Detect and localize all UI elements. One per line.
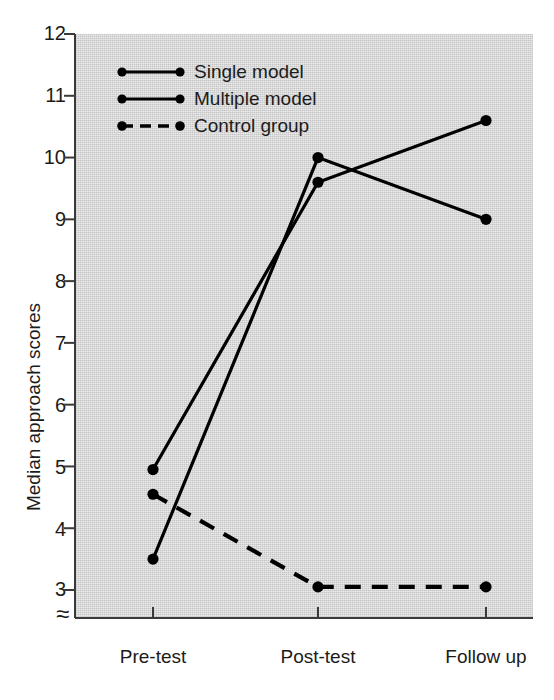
series-line-control-group [153, 494, 486, 587]
data-point-control-group [312, 581, 323, 592]
data-point-control-group [147, 489, 158, 500]
chart-canvas [0, 0, 554, 700]
data-point-single-model [312, 152, 323, 163]
data-point-control-group [480, 581, 491, 592]
data-point-multiple-model [147, 464, 158, 475]
axes [64, 34, 533, 618]
data-series-group [147, 115, 491, 593]
data-point-multiple-model [480, 115, 491, 126]
line-chart: 12 11 10 9 8 7 6 5 4 3 Median approach s… [0, 0, 554, 700]
series-line-multiple-model [153, 120, 486, 469]
data-point-single-model [147, 554, 158, 565]
data-point-multiple-model [312, 177, 323, 188]
data-point-single-model [480, 214, 491, 225]
series-line-single-model [153, 158, 486, 560]
